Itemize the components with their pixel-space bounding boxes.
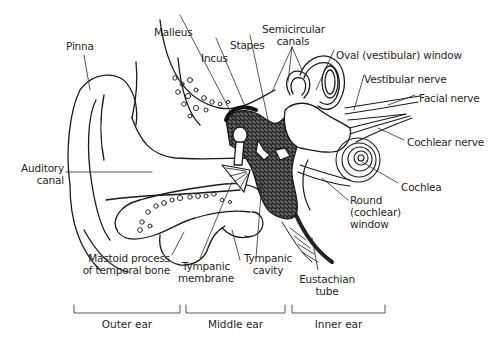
- label-tympanic-membrane-line2: membrane: [175, 272, 237, 284]
- label-malleus: Malleus: [154, 26, 193, 38]
- label-auditory-line2: canal: [2, 174, 64, 186]
- label-tympanic-cavity-line1: Tympanic: [238, 252, 298, 264]
- label-incus: Incus: [201, 52, 228, 64]
- label-auditory-line1: Auditory: [2, 162, 64, 174]
- label-mastoid-line2: of temporal bone: [64, 264, 170, 276]
- region-brackets: [74, 305, 385, 313]
- label-round-window: Round (cochlear) window: [350, 194, 401, 230]
- label-tympanic-cavity-line2: cavity: [238, 264, 298, 276]
- pinna-shape: [68, 62, 137, 272]
- label-semicircular-line1: Semicircular: [262, 23, 324, 35]
- region-outer-ear: Outer ear: [74, 318, 180, 330]
- ear-anatomy-diagram: Pinna Malleus Incus Stapes Semicircular …: [0, 0, 496, 344]
- label-round-window-line2: (cochlear): [350, 206, 401, 218]
- label-facial-nerve: Facial nerve: [419, 92, 480, 104]
- label-mastoid-line1: Mastoid process: [64, 252, 170, 264]
- region-inner-ear: Inner ear: [292, 318, 385, 330]
- label-vestibular-nerve: Vestibular nerve: [364, 73, 447, 85]
- label-round-window-line3: window: [350, 218, 401, 230]
- label-semicircular-line2: canals: [262, 35, 324, 47]
- label-tympanic-cavity: Tympanic cavity: [238, 252, 298, 276]
- label-tympanic-membrane-line1: Tympanic: [175, 260, 237, 272]
- label-eustachian-tube: Eustachian tube: [294, 273, 360, 297]
- label-cochlea: Cochlea: [401, 181, 442, 193]
- label-eustachian-line2: tube: [294, 285, 360, 297]
- label-pinna: Pinna: [66, 40, 94, 52]
- label-stapes: Stapes: [230, 39, 265, 51]
- label-semicircular-canals: Semicircular canals: [262, 23, 324, 47]
- label-eustachian-line1: Eustachian: [294, 273, 360, 285]
- vestibule-shape: [284, 103, 350, 152]
- semicircular-canals-shape: [287, 56, 345, 109]
- label-auditory-canal: Auditory canal: [2, 162, 64, 186]
- label-round-window-line1: Round: [350, 194, 401, 206]
- region-middle-ear: Middle ear: [186, 318, 285, 330]
- label-cochlear-nerve: Cochlear nerve: [407, 136, 484, 148]
- label-oval-window: Oval (vestibular) window: [336, 49, 462, 61]
- label-tympanic-membrane: Tympanic membrane: [175, 260, 237, 284]
- label-mastoid-process: Mastoid process of temporal bone: [64, 252, 170, 276]
- tympanic-membrane-shape: [222, 165, 250, 192]
